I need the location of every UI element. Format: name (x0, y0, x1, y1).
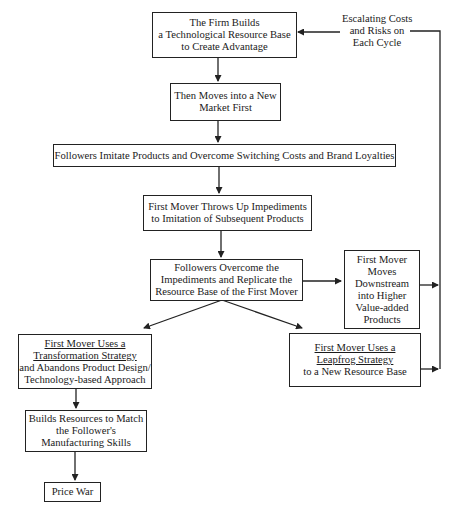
node-firm-builds: The Firm Builds a Technological Resource… (152, 12, 297, 58)
feedback-label: Escalating Costs and Risks on Each Cycle (342, 13, 412, 49)
node-text: Manufacturing Skills (41, 437, 131, 449)
node-text: Followers Overcome the (174, 262, 279, 274)
node-followers-imitate: Followers Imitate Products and Overcome … (53, 144, 396, 167)
node-transformation: First Mover Uses a Transformation Strate… (18, 334, 152, 389)
node-text: Value-added (356, 302, 409, 314)
node-text: Moves (368, 266, 397, 278)
node-text-underlined: First Mover Uses a (45, 338, 126, 350)
arrow-overcome-to-leapfrog (222, 300, 302, 328)
arrow-overcome-to-transformation (144, 300, 222, 328)
node-text: Impediments and Replicate the (161, 274, 293, 286)
node-text: to Create Advantage (181, 41, 267, 53)
node-impediments: First Mover Throws Up Impediments to Imi… (143, 195, 312, 231)
node-text: Products (363, 314, 400, 326)
node-text: Downstream (355, 278, 409, 290)
node-text: The Firm Builds (189, 17, 259, 29)
label-text: Escalating Costs (342, 13, 412, 25)
node-text: the Follower's (56, 425, 116, 437)
node-text-underlined: Leapfrog Strategy (317, 354, 394, 366)
node-downstream: First Mover Moves Downstream into Higher… (344, 250, 420, 329)
node-text: Resource Base of the First Mover (155, 286, 298, 298)
node-text: and Abandons Product Design/ (19, 362, 151, 374)
node-text: into Higher (358, 290, 407, 302)
node-price-war: Price War (44, 482, 101, 502)
node-text: to Imitation of Subsequent Products (151, 213, 303, 225)
node-followers-overcome: Followers Overcome the Impediments and R… (150, 259, 303, 301)
node-text: Followers Imitate Products and Overcome … (55, 150, 395, 162)
node-text: Technology-based Approach (24, 374, 145, 386)
node-text: First Mover (357, 254, 407, 266)
label-text: Each Cycle (342, 37, 412, 49)
label-text: and Risks on (342, 25, 412, 37)
node-leapfrog: First Mover Uses a Leapfrog Strategy to … (289, 333, 421, 387)
node-text: a Technological Resource Base (158, 29, 290, 41)
node-text-underlined: Transformation Strategy (33, 350, 136, 362)
node-moves-first: Then Moves into a New Market First (170, 83, 281, 121)
node-text: First Mover Throws Up Impediments (148, 201, 307, 213)
node-text-underlined: First Mover Uses a (315, 342, 396, 354)
node-text: to a New Resource Base (303, 366, 407, 378)
node-text: Price War (52, 486, 94, 498)
node-text: Then Moves into a New (174, 90, 276, 102)
node-builds-resources: Builds Resources to Match the Follower's… (25, 410, 147, 452)
node-text: Builds Resources to Match (29, 413, 143, 425)
node-text: Market First (199, 102, 252, 114)
